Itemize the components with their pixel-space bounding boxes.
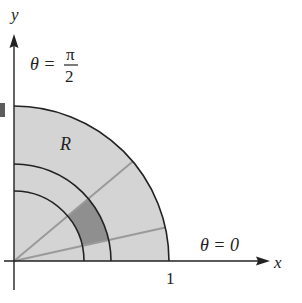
y-axis-label: y <box>9 5 19 24</box>
x-axis-arrow-icon <box>256 257 270 266</box>
x-axis-label: x <box>273 253 282 272</box>
edge-artifact <box>0 103 5 117</box>
polar-region-diagram: y x θ = π 2 θ = 0 R 1 <box>0 0 302 303</box>
theta-pi-over-2-denominator: 2 <box>65 67 74 86</box>
region-label: R <box>59 134 71 154</box>
theta-pi-over-2-lhs: θ = <box>30 54 56 74</box>
tick-label-one: 1 <box>166 269 175 288</box>
theta-zero-label: θ = 0 <box>200 235 239 255</box>
y-axis-arrow-icon <box>10 34 19 48</box>
theta-pi-over-2-numerator: π <box>66 45 75 64</box>
